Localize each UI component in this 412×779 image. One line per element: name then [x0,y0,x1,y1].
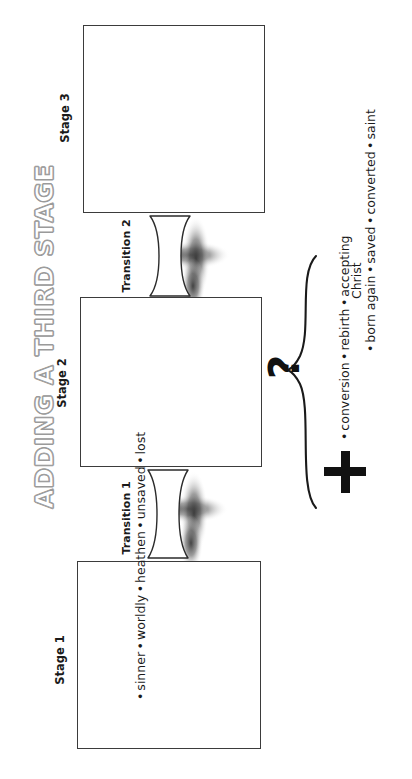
stage-box-3[interactable] [83,25,265,213]
bullet-item: •heathen [134,531,147,592]
bullet-item-label: converted [363,151,378,214]
bullet-dot-icon: • [363,266,378,273]
bullet-dot-icon: • [133,642,148,649]
bullet-item: •acceptingChrist [338,235,363,306]
bullet-dot-icon: • [363,142,378,149]
bullet-item-label: lost [133,432,148,455]
brace-right-bullet-list: •born again•saved•converted•saint [364,107,377,352]
bullet-item-continuation: Christ [350,235,363,299]
bullet-item: •born again [364,276,377,352]
bullet-item-label: sinner [133,652,148,691]
stage-box-2[interactable] [80,297,262,467]
bullet-item: •sinner [134,652,147,700]
bullet-item-label: born again [363,276,378,343]
bullet-item: •lost [134,432,147,464]
transition1-arrow [148,470,188,558]
bullet-item-label: saint [363,109,378,139]
brace-left-bullet-list: •conversion•rebirth•acceptingChrist [338,233,363,440]
transition2-arrow [150,216,190,296]
bullet-dot-icon: • [133,456,148,463]
plus-sign [318,445,372,499]
bullet-dot-icon: • [337,299,352,306]
bullet-item: •saint [364,109,377,149]
bullet-dot-icon: • [363,345,378,352]
transition-label-2: Transition 2 [120,221,133,293]
bullet-item: •conversion [338,362,363,440]
bullet-dot-icon: • [133,521,148,528]
question-mark: ? [258,340,312,394]
bullet-dot-icon: • [133,585,148,592]
bullet-item: •unsaved [134,466,147,528]
transition-label-1: Transition 1 [120,483,133,555]
bullet-item-label: heathen [133,531,148,583]
bullet-item: •saved [364,226,377,273]
stage-label-1: Stage 1 [53,634,67,686]
bullet-dot-icon: • [133,693,148,700]
bullet-dot-icon: • [363,217,378,224]
stage1-bullet-list: •sinner•worldly•heathen•unsaved•lost [134,429,147,700]
stage-label-3: Stage 3 [58,92,72,144]
stage-box-1[interactable] [77,561,261,749]
bullet-item-label: rebirth [337,309,352,351]
bullet-item-label: worldly [133,595,148,640]
stage-label-2: Stage 2 [55,357,69,409]
bullet-item: •rebirth [338,309,363,360]
bullet-item-label: unsaved [133,466,148,519]
bullet-item-label: saved [363,226,378,263]
plus-horizontal-bar [324,467,366,476]
bullet-item: •worldly [134,595,147,650]
transition1-shadow [152,471,228,571]
bullet-dot-icon: • [337,433,352,440]
bullet-item: •converted [364,151,377,224]
diagram-canvas: ADDING A THIRD STAGE [0,0,412,779]
bullet-dot-icon: • [337,353,352,360]
bullet-item-label: conversion [337,362,352,430]
